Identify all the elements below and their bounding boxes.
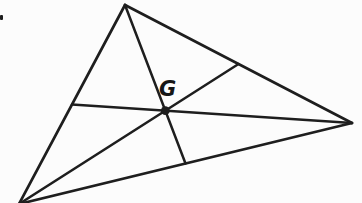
centroid-label: G	[159, 77, 176, 101]
centroid-point	[161, 106, 170, 115]
median-from-bottom-left-vertex	[19, 64, 239, 203]
median-from-right-vertex	[72, 105, 352, 124]
median-from-top-vertex	[125, 5, 186, 164]
triangle-medians-svg: G	[0, 0, 362, 203]
cropped-margin-mark	[0, 15, 3, 20]
median-centroid-diagram: G	[0, 0, 362, 203]
